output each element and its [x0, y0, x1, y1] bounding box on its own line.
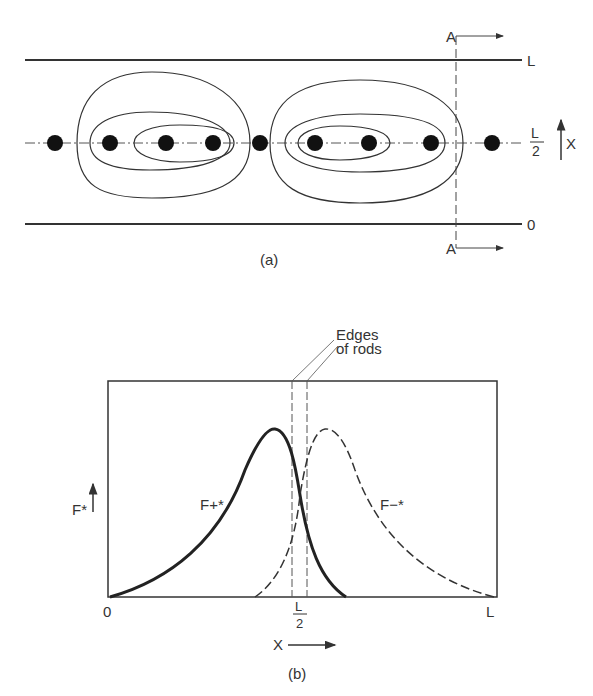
- figure-a: A A L 0 L 2 X (a): [25, 28, 576, 268]
- rod: [205, 135, 221, 151]
- mid-label-num: L: [531, 125, 539, 141]
- curve-label-f-minus: F−*: [380, 496, 404, 513]
- caption-a: (a): [260, 251, 278, 268]
- rod: [102, 135, 118, 151]
- annotation-leader-1: [292, 340, 334, 381]
- contour-outer-left: [77, 72, 250, 198]
- rod: [484, 135, 500, 151]
- mid-label-den: 2: [532, 143, 540, 159]
- figure-b: Edges of rods F+* F−* F* 0 L 2 L X (b): [72, 326, 497, 682]
- rod: [47, 135, 63, 151]
- tick-half-num: L: [295, 599, 302, 614]
- rod: [361, 135, 377, 151]
- tick-zero: 0: [103, 603, 111, 620]
- rod: [158, 135, 174, 151]
- x-axis-label-a: X: [566, 135, 576, 152]
- figure-canvas: A A L 0 L 2 X (a) Edges of rods F+* F−* …: [0, 0, 593, 696]
- curve-label-f-plus: F+*: [200, 496, 224, 513]
- curve-f-plus: [110, 429, 346, 597]
- rod: [423, 135, 439, 151]
- tick-half-den: 2: [296, 616, 303, 631]
- bottom-line-label: 0: [527, 216, 535, 233]
- y-axis-label: F*: [72, 501, 87, 518]
- x-axis-label: X: [273, 636, 283, 653]
- section-label-bottom: A: [446, 240, 456, 257]
- caption-b: (b): [288, 665, 306, 682]
- rod: [307, 135, 323, 151]
- tick-end: L: [486, 603, 494, 620]
- plot-frame: [108, 381, 497, 597]
- annotation-of-rods: of rods: [336, 340, 382, 357]
- top-line-label: L: [527, 52, 535, 69]
- section-label-top: A: [446, 28, 456, 45]
- rod: [252, 135, 268, 151]
